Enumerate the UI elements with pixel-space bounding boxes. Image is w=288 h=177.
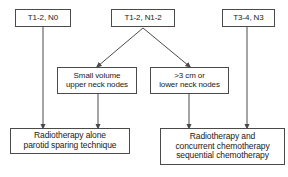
node-nodal-large-or-lower: >3 cm orlower neck nodes <box>150 67 229 94</box>
node-label-line: lower neck nodes <box>159 81 220 90</box>
node-stage-t12-n0: T1-2, N0 <box>15 9 71 27</box>
node-label-line: upper neck nodes <box>66 81 128 90</box>
arrow-edge-t12n12-to-small-volume <box>98 28 143 66</box>
node-label-line: T1-2, N0 <box>28 14 58 23</box>
node-label-line: parotid sparing technique <box>24 141 117 151</box>
node-treatment-rt-chemo: Radiotherapy andconcurrent chemotherapys… <box>160 128 285 165</box>
node-label-line: T1-2, N1-2 <box>124 14 161 23</box>
node-stage-t12-n12: T1-2, N1-2 <box>111 9 175 27</box>
arrow-edge-t12n12-to-large-lower <box>143 28 189 66</box>
flowchart-canvas: T1-2, N0T1-2, N1-2T3-4, N3Small volumeup… <box>0 0 288 177</box>
node-stage-t34-n3: T3-4, N3 <box>222 9 275 27</box>
node-label-line: T3-4, N3 <box>233 14 263 23</box>
node-treatment-rt-alone: Radiotherapy aloneparotid sparing techni… <box>10 128 130 154</box>
node-label-line: sequential chemotherapy <box>176 151 269 161</box>
node-nodal-small-volume: Small volumeupper neck nodes <box>57 67 137 94</box>
